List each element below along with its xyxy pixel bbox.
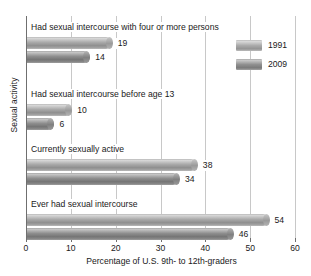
bar-value-label: 19 (116, 38, 129, 49)
category-label: Had sexual intercourse before age 13 (30, 89, 176, 99)
legend-item-2009[interactable]: 2009 (236, 57, 287, 71)
gridline-40 (205, 16, 206, 238)
bar-1991[interactable] (27, 37, 112, 49)
tick-label-40: 40 (201, 243, 211, 253)
bar-1991[interactable] (27, 104, 72, 116)
legend-label-2009: 2009 (268, 59, 287, 69)
bar-value-label: 10 (76, 105, 89, 116)
legend-swatch-icon-2009 (236, 59, 262, 70)
tick-label-20: 20 (111, 243, 121, 253)
bar-2009[interactable] (27, 173, 179, 185)
bar-1991[interactable] (27, 214, 269, 226)
bar-chart: Sexual activity 0102030405060 Had sexual… (0, 0, 311, 276)
bar-2009[interactable] (27, 118, 54, 130)
bar-body (27, 37, 112, 49)
tick-label-0: 0 (24, 243, 29, 253)
legend-swatch-icon-1991 (236, 40, 262, 51)
bar-end-cap (83, 51, 90, 63)
bar-2009[interactable] (27, 51, 90, 63)
tick-mark-60 (295, 238, 296, 242)
category-label: Currently sexually active (30, 144, 126, 154)
bar-value-label: 34 (183, 174, 196, 185)
tick-label-30: 30 (156, 243, 166, 253)
bar-value-label: 54 (273, 215, 286, 226)
x-axis-label: Percentage of U.S. 9th- to 12th-graders (26, 256, 297, 266)
bar-end-cap (106, 37, 113, 49)
bar-2009[interactable] (27, 228, 233, 240)
tick-label-50: 50 (245, 243, 255, 253)
tick-label-10: 10 (66, 243, 76, 253)
gridline-30 (161, 16, 162, 238)
bar-end-cap (227, 228, 234, 240)
bar-end-cap (47, 118, 54, 130)
y-axis-label: Sexual activity (9, 45, 19, 165)
bar-body (27, 173, 179, 185)
tick-label-60: 60 (290, 243, 300, 253)
bar-end-cap (191, 159, 198, 171)
category-label: Had sexual intercourse with four or more… (30, 22, 221, 32)
bar-body (27, 228, 233, 240)
gridline-60 (295, 16, 296, 238)
bar-value-label: 6 (58, 119, 66, 130)
bar-end-cap (173, 173, 180, 185)
tick-mark-50 (250, 238, 251, 242)
bar-value-label: 38 (201, 160, 214, 171)
bar-body (27, 159, 197, 171)
legend-item-1991[interactable]: 1991 (236, 38, 287, 52)
category-label: Ever had sexual intercourse (30, 199, 140, 209)
bar-body (27, 214, 269, 226)
bar-value-label: 14 (94, 52, 107, 63)
bar-body (27, 51, 90, 63)
legend-label-1991: 1991 (268, 40, 287, 50)
bar-value-label: 46 (237, 229, 250, 240)
legend: 1991 2009 (236, 38, 287, 76)
bar-1991[interactable] (27, 159, 197, 171)
bar-end-cap (263, 214, 270, 226)
